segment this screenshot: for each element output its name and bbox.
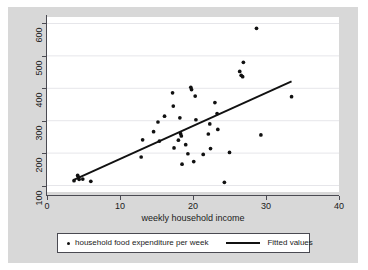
scatter-point: [177, 138, 181, 142]
scatter-point: [141, 138, 145, 142]
scatter-point: [190, 88, 194, 92]
scatter-point: [179, 134, 183, 138]
scatter-point: [81, 177, 85, 181]
scatter-point: [206, 132, 210, 136]
scatter-point: [216, 128, 220, 132]
scatter-point: [139, 155, 143, 159]
y-axis-line: [46, 15, 47, 196]
x-axis-tick-label: 30: [254, 201, 278, 211]
y-axis-tick-label: 400: [34, 87, 44, 113]
scatter-point: [163, 114, 167, 118]
scatter-point: [172, 146, 176, 150]
scatter-point: [238, 70, 242, 74]
legend-entry-fitted-values: Fitted values: [226, 239, 312, 247]
scatter-point: [158, 139, 162, 143]
scatter-point: [171, 91, 175, 95]
dot-marker-icon: [67, 242, 70, 245]
chart-figure: 100200300400500600 010203040 weekly hous…: [0, 0, 368, 270]
y-axis-tick-label: 500: [34, 55, 44, 81]
scatter-point: [192, 160, 196, 164]
scatter-point: [241, 75, 245, 79]
y-axis-tick-label: 200: [34, 152, 44, 178]
x-axis-tick-label: 40: [327, 201, 351, 211]
scatter-point: [201, 153, 205, 157]
scatter-point: [259, 133, 263, 137]
scatter-point: [186, 152, 190, 156]
x-axis-tick: [193, 196, 194, 200]
scatter-point: [156, 120, 160, 124]
scatter-point: [242, 61, 246, 65]
scatter-point: [178, 116, 182, 120]
line-marker-icon: [226, 242, 260, 244]
scatter-point: [77, 178, 81, 182]
scatter-point: [215, 112, 219, 116]
legend-entry-scatter: household food expenditure per week: [67, 239, 208, 247]
x-axis-tick: [47, 196, 48, 200]
scatter-point: [223, 180, 227, 184]
x-axis-title: weekly household income: [47, 213, 339, 223]
x-axis-tick: [339, 196, 340, 200]
scatter-point: [255, 26, 259, 30]
scatter-point: [213, 101, 217, 105]
scatter-point: [209, 147, 213, 151]
scatter-point: [228, 151, 232, 155]
scatter-point: [152, 130, 156, 134]
legend-label-scatter: household food expenditure per week: [75, 239, 208, 247]
x-axis-tick-label: 20: [181, 201, 205, 211]
scatter-points-group: [72, 26, 293, 184]
scatter-point: [184, 143, 188, 147]
scatter-point: [180, 162, 184, 166]
x-axis-tick-label: 10: [108, 201, 132, 211]
scatter-point: [290, 95, 294, 99]
plot-area: [47, 17, 339, 192]
y-axis-tick-label: 300: [34, 120, 44, 146]
x-axis-tick-label: 0: [35, 201, 59, 211]
y-axis-tick-label: 600: [34, 22, 44, 48]
scatter-point: [193, 94, 197, 98]
x-axis-tick: [266, 196, 267, 200]
scatter-point: [171, 104, 175, 108]
scatter-point: [89, 179, 93, 183]
x-axis-tick: [120, 196, 121, 200]
plot-svg: [47, 17, 339, 192]
legend-label-fitted-values: Fitted values: [267, 239, 312, 247]
scatter-point: [72, 179, 76, 183]
scatter-point: [194, 118, 198, 122]
scatter-point: [208, 122, 212, 126]
legend: household food expenditure per week Fitt…: [57, 233, 310, 253]
